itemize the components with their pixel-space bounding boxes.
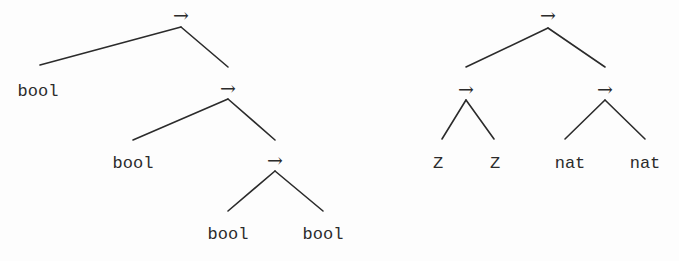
leaf-z: Z	[433, 154, 443, 173]
arrow-node: →	[220, 77, 236, 99]
edge	[275, 171, 323, 211]
edge	[565, 100, 605, 139]
arrow-node: →	[173, 4, 189, 26]
type-tree-diagram: → → → bool bool bool bool → → → Z Z nat …	[0, 0, 679, 261]
leaf-bool: bool	[208, 225, 249, 244]
edge	[605, 100, 645, 139]
leaf-bool: bool	[113, 154, 154, 173]
edge	[548, 28, 605, 67]
arrow-node: →	[540, 4, 556, 26]
leaf-z: Z	[490, 154, 500, 173]
arrow-node: →	[458, 78, 474, 100]
edge	[40, 27, 181, 65]
leaf-nat: nat	[555, 154, 586, 173]
right-tree: → → → Z Z nat nat	[433, 4, 660, 173]
edge	[181, 27, 228, 67]
leaf-bool: bool	[303, 225, 344, 244]
edge	[228, 99, 275, 140]
edge	[133, 99, 228, 140]
edge	[228, 171, 275, 211]
edge	[442, 100, 466, 139]
leaf-bool: bool	[18, 82, 59, 101]
edge	[466, 28, 548, 67]
leaf-nat: nat	[630, 154, 661, 173]
arrow-node: →	[267, 149, 283, 171]
edge	[466, 100, 494, 139]
arrow-node: →	[597, 78, 613, 100]
left-tree: → → → bool bool bool bool	[18, 4, 344, 244]
